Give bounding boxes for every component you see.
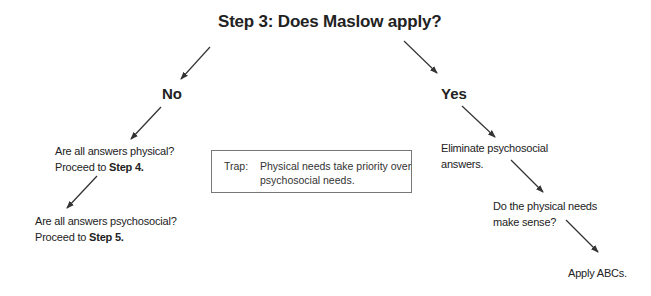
trap-line1: Physical needs take priority over — [260, 159, 411, 173]
trap-label: Trap: — [224, 159, 248, 173]
no-step-psychosocial: Are all answers psychosocial? Proceed to… — [35, 213, 177, 245]
trap-box: Trap: Physical needs take priority over … — [211, 150, 412, 193]
yes-step-eliminate: Eliminate psychosocial answers. — [441, 140, 548, 172]
arrow-physical-to-psychosocial — [67, 176, 97, 208]
arrow-yes-to-eliminate — [462, 106, 495, 137]
no-step-physical: Are all answers physical? Proceed to Ste… — [55, 143, 174, 175]
arrow-no-to-physical — [131, 107, 161, 139]
trap-line2: psychosocial needs. — [260, 173, 355, 187]
arrow-title-to-yes — [404, 41, 437, 73]
yes-step-sense: Do the physical needs make sense? — [493, 198, 597, 230]
yes-step-abcs: Apply ABCs. — [568, 265, 627, 281]
branch-no-label: No — [162, 85, 182, 102]
diagram-title: Step 3: Does Maslow apply? — [218, 12, 441, 32]
branch-yes-label: Yes — [441, 85, 467, 102]
arrow-title-to-no — [181, 47, 210, 79]
